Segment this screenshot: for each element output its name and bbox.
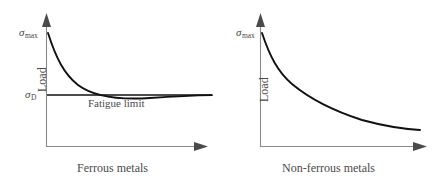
ferrous-sn-curve xyxy=(48,33,212,99)
ferrous-y-axis-title: Load xyxy=(36,67,48,92)
nonferrous-sn-curve xyxy=(262,33,420,130)
chart-panel-ferrous: σmax σD Load Fatigue limit Ferrous metal… xyxy=(0,0,224,187)
chart-panel-nonferrous: σmax Load Non-ferrous metals xyxy=(224,0,447,187)
fatigue-curves-figure: σmax σD Load Fatigue limit Ferrous metal… xyxy=(0,0,447,187)
ferrous-sigma-d-subscript: D xyxy=(31,93,36,102)
nonferrous-sigma-max-label: σmax xyxy=(236,27,254,38)
ferrous-caption: Ferrous metals xyxy=(77,162,148,174)
nonferrous-y-axis-title: Load xyxy=(258,77,270,102)
nonferrous-sigma-max-symbol: σ xyxy=(236,26,241,38)
nonferrous-caption: Non-ferrous metals xyxy=(282,162,375,174)
ferrous-x-axis-arrowhead xyxy=(194,142,208,151)
nonferrous-x-axis-arrowhead xyxy=(413,142,427,151)
ferrous-sigma-max-symbol: σ xyxy=(19,26,24,38)
ferrous-sigma-max-label: σmax xyxy=(19,27,37,38)
nonferrous-sigma-max-subscript: max xyxy=(242,31,255,40)
ferrous-sigma-d-symbol: σ xyxy=(25,88,30,100)
ferrous-y-axis-arrowhead xyxy=(42,13,51,27)
ferrous-sigma-max-subscript: max xyxy=(25,31,38,40)
nonferrous-y-axis-arrowhead xyxy=(256,13,265,27)
ferrous-fatigue-limit-annotation: Fatigue limit xyxy=(88,98,145,109)
